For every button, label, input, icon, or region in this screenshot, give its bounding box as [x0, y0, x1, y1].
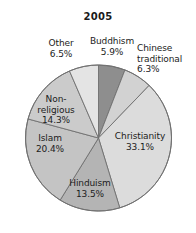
pie-label-islam: Islam 20.4%	[26, 133, 74, 154]
pie-chart-figure: 2005 Other 6.5% Buddhism 5.9% Chinese tr…	[0, 0, 196, 233]
pie-label-christianity: Christianity 33.1%	[108, 131, 172, 152]
pie-label-hinduism: Hinduism 13.5%	[60, 178, 120, 199]
pie-label-non-religious: Non- religious 14.3%	[30, 94, 82, 126]
pie-label-chinese-traditional: Chinese traditional 6.3%	[137, 43, 194, 75]
pie-label-buddhism: Buddhism 5.9%	[85, 36, 139, 57]
pie-label-other: Other 6.5%	[38, 38, 84, 59]
